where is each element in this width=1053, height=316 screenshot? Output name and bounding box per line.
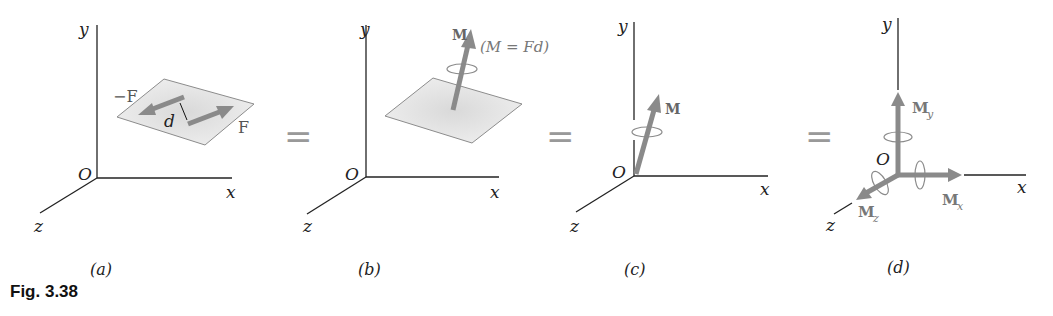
origin-label: O xyxy=(876,149,890,169)
x-label: x xyxy=(760,179,770,199)
force-label: F xyxy=(238,118,249,137)
diagram-canvas: y x z O −F F d (a) = y x z O M (M = Fd) … xyxy=(0,0,1053,316)
y-label: y xyxy=(78,19,89,39)
x-label: x xyxy=(1017,177,1027,197)
neg-force-label: −F xyxy=(113,87,138,106)
distance-label: d xyxy=(164,111,175,131)
equals-sign-2: = xyxy=(546,116,575,156)
plane xyxy=(117,79,254,145)
z-label: z xyxy=(33,216,44,236)
panel-d-label: (d) xyxy=(887,258,910,277)
panel-a-label: (a) xyxy=(90,260,112,279)
origin-label: O xyxy=(78,164,92,184)
origin-label: O xyxy=(345,164,359,184)
panel-b-label: (b) xyxy=(358,260,381,279)
z-label: z xyxy=(825,215,836,235)
equals-sign-1: = xyxy=(284,116,313,156)
moment-arrow xyxy=(636,110,654,174)
plane xyxy=(385,78,522,143)
moment-label: M xyxy=(452,27,468,43)
y-label: y xyxy=(617,16,628,36)
figure-3-38: y x z O −F F d (a) = y x z O M (M = Fd) … xyxy=(0,0,1053,316)
z-label: z xyxy=(569,216,580,236)
z-label: z xyxy=(302,216,313,236)
panel-a: y x z O −F F d (a) xyxy=(33,19,254,279)
origin-label: O xyxy=(612,162,626,182)
moment-formula: (M = Fd) xyxy=(480,38,549,56)
mz-arrow xyxy=(866,175,898,193)
panel-d: y x z O M y M x M z (d) xyxy=(825,14,1027,277)
x-label: x xyxy=(490,182,500,202)
panel-c: y x z O M (c) xyxy=(569,16,770,279)
z-axis xyxy=(834,203,852,214)
mz-subscript: z xyxy=(872,212,879,225)
y-label: y xyxy=(881,14,892,34)
mx-subscript: x xyxy=(957,200,964,213)
moment-label: M xyxy=(665,101,681,117)
my-arrowhead xyxy=(891,92,905,106)
my-subscript: y xyxy=(926,108,934,121)
x-label: x xyxy=(226,182,236,202)
panel-c-label: (c) xyxy=(624,260,645,279)
figure-caption: Fig. 3.38 xyxy=(10,282,78,302)
panel-b: y x z O M (M = Fd) (b) xyxy=(302,19,549,279)
y-label: y xyxy=(359,19,370,39)
moment-arrowhead xyxy=(647,94,661,113)
equals-sign-3: = xyxy=(805,116,834,156)
mx-arrowhead xyxy=(948,168,962,182)
